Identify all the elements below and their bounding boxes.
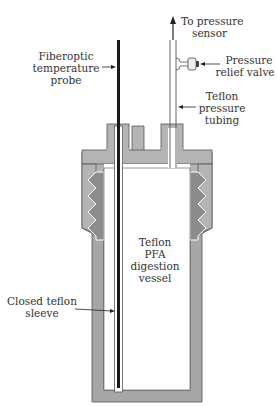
fiberoptic-probe: [117, 40, 120, 388]
svg-text:sleeve: sleeve: [25, 307, 58, 319]
svg-text:Fiberoptic: Fiberoptic: [38, 50, 93, 62]
svg-text:Teflon: Teflon: [206, 90, 239, 102]
cap-top: [82, 150, 212, 164]
arrow-up-icon: [170, 16, 176, 24]
svg-text:sensor: sensor: [192, 27, 228, 39]
digestion-vessel-diagram: To pressure sensor Fiberoptic temperatur…: [0, 0, 277, 406]
svg-text:Closed teflon: Closed teflon: [7, 295, 77, 307]
svg-text:PFA: PFA: [144, 248, 165, 260]
svg-text:Teflon: Teflon: [139, 236, 172, 248]
svg-text:probe: probe: [51, 74, 82, 86]
svg-text:temperature: temperature: [33, 62, 100, 74]
label-closed-sleeve: Closed teflon sleeve: [7, 295, 77, 319]
svg-text:Pressure: Pressure: [225, 54, 272, 66]
relief-valve: [188, 58, 196, 70]
svg-text:relief valve: relief valve: [215, 66, 274, 78]
label-pressure-relief-valve: Pressure relief valve: [215, 54, 274, 78]
label-to-pressure-sensor: To pressure sensor: [181, 15, 244, 39]
svg-text:digestion: digestion: [130, 260, 179, 272]
svg-text:tubing: tubing: [205, 114, 240, 126]
label-teflon-tubing: Teflon pressure tubing: [199, 90, 246, 126]
svg-text:pressure: pressure: [199, 102, 246, 114]
svg-text:vessel: vessel: [138, 272, 172, 284]
label-fiberoptic-probe: Fiberoptic temperature probe: [33, 50, 100, 86]
svg-text:To pressure: To pressure: [181, 15, 244, 27]
